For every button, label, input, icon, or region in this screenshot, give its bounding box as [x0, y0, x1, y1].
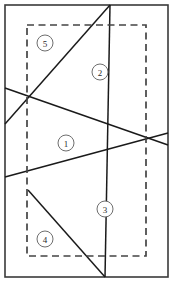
region-label-2: 2	[92, 64, 108, 80]
region-label-5: 5	[37, 35, 53, 51]
region-label-4: 4	[37, 231, 53, 247]
label-text-5: 5	[43, 39, 48, 49]
label-text-2: 2	[98, 68, 103, 78]
outer-frame-rect	[5, 5, 168, 277]
diagram-container: 12345	[0, 0, 174, 283]
label-text-3: 3	[103, 205, 108, 215]
label-text-4: 4	[43, 235, 48, 245]
label-text-1: 1	[64, 139, 69, 149]
region-label-1: 1	[58, 135, 74, 151]
region-label-3: 3	[97, 201, 113, 217]
partition-diagram: 12345	[0, 0, 174, 283]
